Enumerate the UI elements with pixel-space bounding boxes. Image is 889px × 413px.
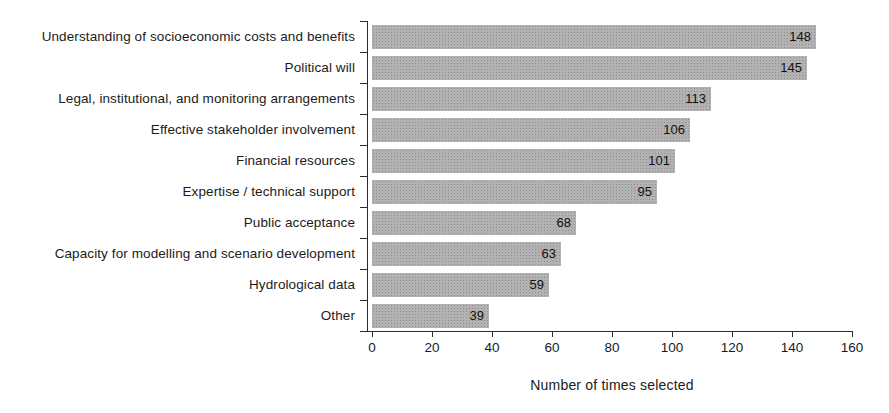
- category-label: Financial resources: [0, 145, 355, 176]
- x-axis-tick-label: 100: [652, 340, 692, 355]
- bar-row: Financial resources101: [0, 145, 889, 176]
- value-label: 101: [648, 153, 675, 168]
- bar-row: Expertise / technical support95: [0, 176, 889, 207]
- category-label: Other: [0, 300, 355, 331]
- x-axis-tick-label: 60: [532, 340, 572, 355]
- x-axis-tick: [612, 331, 613, 337]
- bar-row: Capacity for modelling and scenario deve…: [0, 238, 889, 269]
- x-axis-tick: [552, 331, 553, 337]
- x-axis-tick: [492, 331, 493, 337]
- x-axis-tick: [372, 331, 373, 337]
- bar-row: Legal, institutional, and monitoring arr…: [0, 83, 889, 114]
- x-axis-tick: [792, 331, 793, 337]
- bar: 106: [372, 118, 690, 142]
- category-label: Public acceptance: [0, 207, 355, 238]
- bar-row: Public acceptance68: [0, 207, 889, 238]
- y-axis-tick: [360, 331, 367, 332]
- category-label: Legal, institutional, and monitoring arr…: [0, 83, 355, 114]
- x-axis-tick-label: 20: [412, 340, 452, 355]
- x-axis-tick-label: 0: [352, 340, 392, 355]
- y-axis-tick: [360, 176, 367, 177]
- bar: 145: [372, 56, 807, 80]
- category-label: Hydrological data: [0, 269, 355, 300]
- category-label: Expertise / technical support: [0, 176, 355, 207]
- value-label: 63: [542, 246, 561, 261]
- x-axis-tick-label: 80: [592, 340, 632, 355]
- bar: 39: [372, 304, 489, 328]
- y-axis-tick: [360, 207, 367, 208]
- bar-chart-figure: Understanding of socioeconomic costs and…: [0, 0, 889, 413]
- value-label: 113: [685, 91, 711, 106]
- bar: 101: [372, 149, 675, 173]
- bar-row: Hydrological data59: [0, 269, 889, 300]
- x-axis-tick: [432, 331, 433, 337]
- y-axis-tick: [360, 300, 367, 301]
- category-label: Understanding of socioeconomic costs and…: [0, 21, 355, 52]
- x-axis-tick-label: 40: [472, 340, 512, 355]
- category-label: Capacity for modelling and scenario deve…: [0, 238, 355, 269]
- y-axis-tick: [360, 83, 367, 84]
- x-axis-tick-label: 160: [832, 340, 872, 355]
- y-axis-tick: [360, 145, 367, 146]
- x-axis-tick: [672, 331, 673, 337]
- value-label: 145: [780, 60, 807, 75]
- y-axis-tick: [360, 269, 367, 270]
- bar: 113: [372, 87, 711, 111]
- bar-row: Other39: [0, 300, 889, 331]
- category-label: Political will: [0, 52, 355, 83]
- x-axis-tick-label: 140: [772, 340, 812, 355]
- bar: 95: [372, 180, 657, 204]
- x-axis-tick: [852, 331, 853, 337]
- value-label: 59: [530, 277, 549, 292]
- x-axis-title: Number of times selected: [372, 377, 852, 393]
- bar: 63: [372, 242, 561, 266]
- y-axis-tick: [360, 52, 367, 53]
- bar-row: Effective stakeholder involvement106: [0, 114, 889, 145]
- x-axis-tick-label: 120: [712, 340, 752, 355]
- x-axis-line: [367, 331, 853, 332]
- bar: 59: [372, 273, 549, 297]
- value-label: 39: [470, 308, 489, 323]
- x-axis-tick: [732, 331, 733, 337]
- bar: 148: [372, 25, 816, 49]
- bar-row: Political will145: [0, 52, 889, 83]
- bar: 68: [372, 211, 576, 235]
- y-axis-tick: [360, 21, 367, 22]
- y-axis-tick: [360, 238, 367, 239]
- category-label: Effective stakeholder involvement: [0, 114, 355, 145]
- y-axis-line: [367, 21, 368, 331]
- value-label: 106: [663, 122, 690, 137]
- value-label: 95: [638, 184, 657, 199]
- bar-row: Understanding of socioeconomic costs and…: [0, 21, 889, 52]
- value-label: 68: [557, 215, 576, 230]
- y-axis-tick: [360, 114, 367, 115]
- value-label: 148: [789, 29, 816, 44]
